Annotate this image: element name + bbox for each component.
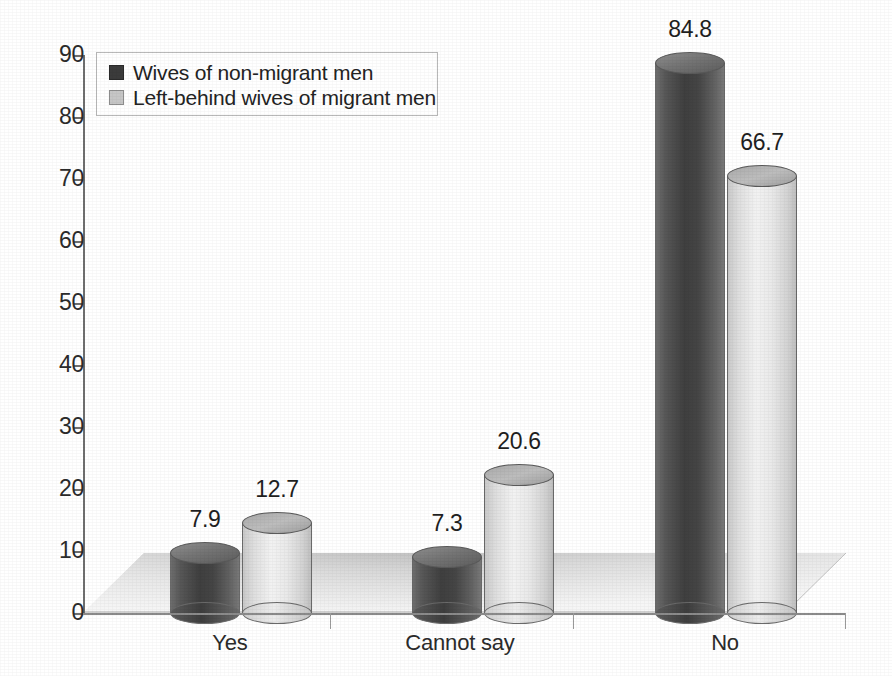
chart-container: 90 80 70 60 50 40 30 20 — [0, 0, 892, 676]
y-axis-tick-label: 0 — [38, 601, 84, 624]
value-label-yes-light: 12.7 — [242, 478, 312, 501]
y-axis-tick-label: 90 — [38, 43, 84, 66]
bar-cannot-say-left-behind-wives-of-migrant-men[interactable] — [484, 464, 554, 613]
value-label-cannot-say-dark: 7.3 — [412, 512, 482, 535]
legend: Wives of non-migrant men Left-behind wiv… — [96, 52, 438, 116]
cylinder-top-cap — [484, 464, 554, 486]
bar-yes-left-behind-wives-of-migrant-men[interactable] — [242, 512, 312, 613]
cylinder-body — [484, 475, 554, 613]
y-axis-tick-label: 20 — [38, 477, 84, 500]
y-axis-tick-label: 60 — [38, 229, 84, 252]
y-axis-tick-label: 40 — [38, 353, 84, 376]
y-axis-line — [83, 55, 85, 614]
cylinder-top-cap — [242, 512, 312, 534]
bar-yes-wives-of-non-migrant-men[interactable] — [170, 542, 240, 613]
x-axis-separator — [845, 613, 846, 629]
legend-swatch-icon — [109, 65, 124, 80]
x-axis-label-yes: Yes — [150, 632, 310, 654]
cylinder-top-cap — [170, 542, 240, 564]
bar-no-wives-of-non-migrant-men[interactable] — [655, 52, 725, 613]
cylinder-body — [242, 523, 312, 613]
cylinder-top-cap — [727, 165, 797, 187]
cylinder-top-cap — [655, 52, 725, 74]
y-axis-tick-label: 80 — [38, 105, 84, 128]
value-label-no-light: 66.7 — [727, 131, 797, 154]
bar-no-left-behind-wives-of-migrant-men[interactable] — [727, 165, 797, 613]
y-axis-tick-label: 30 — [38, 415, 84, 438]
legend-swatch-icon — [109, 90, 124, 105]
legend-label: Left-behind wives of migrant men — [133, 87, 436, 108]
x-axis-line — [83, 613, 845, 615]
y-axis-tick-label: 10 — [38, 539, 84, 562]
cylinder-top-cap — [412, 546, 482, 568]
value-label-no-dark: 84.8 — [655, 18, 725, 41]
cylinder-body — [727, 176, 797, 613]
plot-area: 90 80 70 60 50 40 30 20 — [0, 0, 892, 676]
value-label-yes-dark: 7.9 — [170, 508, 240, 531]
legend-entry-wives-of-non-migrant-men[interactable]: Wives of non-migrant men — [109, 60, 437, 85]
y-axis-tick-label: 70 — [38, 167, 84, 190]
cylinder-body — [655, 63, 725, 613]
x-axis-label-cannot-say: Cannot say — [370, 632, 550, 654]
x-axis-label-no: No — [645, 632, 805, 654]
legend-entry-left-behind-wives-of-migrant-men[interactable]: Left-behind wives of migrant men — [109, 85, 437, 110]
x-axis-separator — [573, 613, 574, 629]
bar-cannot-say-wives-of-non-migrant-men[interactable] — [412, 546, 482, 613]
legend-label: Wives of non-migrant men — [133, 62, 373, 83]
value-label-cannot-say-light: 20.6 — [484, 430, 554, 453]
x-axis-separator — [330, 613, 331, 629]
y-axis-tick-label: 50 — [38, 291, 84, 314]
